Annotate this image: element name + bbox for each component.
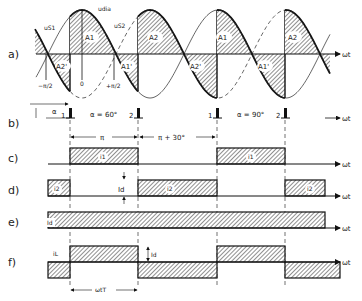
label-zero: 0 [80,80,84,87]
label-plus-pi-2: +π/2 [106,82,121,89]
area-A2-2: A2 [288,34,297,42]
row-label-c: c) [8,152,18,165]
label-Id-f: Id [151,251,157,258]
label-minus-pi-2: −π/2 [38,82,53,89]
pulse-3-label: 1 [208,112,212,120]
span-pi-label: π [100,134,105,142]
pulse-2 [137,108,140,118]
row-label-d: d) [8,184,19,197]
label-i2: i2 [54,185,60,192]
current-Id: ωt Id [46,212,351,233]
current-i2: ωt i2 i2 i2 Id [48,172,351,204]
alpha-60-label: α = 60° [90,111,117,119]
current-i1: ωt i1 i1 [48,148,351,169]
label-Id: Id [118,186,125,194]
pulse-4 [284,108,287,118]
axis-label-c: ωt [342,161,351,169]
area-A1: A1 [85,34,94,42]
axis-label-d: ωt [342,193,351,201]
label-us1: uS1 [44,24,56,31]
label-i1: i1 [100,153,106,160]
pulse-3 [216,108,219,118]
axis-label-e: ωt [342,225,351,233]
row-label-e: e) [8,216,19,229]
rectifier-waveform-diagram: a) b) c) d) e) f) ωt −π/2 0 +π/2 uS1 udi… [0,0,362,301]
area-A1-prime: A1' [121,63,132,71]
row-label-f: f) [8,256,16,269]
label-i1-2: i1 [248,153,254,160]
row-label-b: b) [8,117,19,130]
label-iL: iL [53,250,59,257]
pulse-1-label: 1 [61,112,65,120]
area-A1-2: A1 [218,34,227,42]
firing-pulses: α 1 2 1 2 α = 60° α = 90° ωt π π + 30° [30,104,351,142]
label-Id-e: Id [47,219,53,226]
area-A2-prime-2: A2' [190,63,201,71]
alpha-90-label: α = 90° [237,111,264,119]
label-udia: udia [98,5,111,12]
area-A2: A2 [149,34,158,42]
area-A2-prime: A2' [56,63,67,71]
area-A1-prime-2: A1' [258,63,269,71]
pulse-4-label: 2 [276,112,280,120]
pulse-1 [69,108,72,118]
span-pi-30-label: π + 30° [158,134,185,142]
pulse-2-label: 2 [129,112,133,120]
current-iL: ωt iL Id ωtT [48,246,351,293]
axis-label-f: ωt [342,259,351,267]
label-i2-3: i2 [307,185,313,192]
label-wT: ωtT [95,286,106,293]
axis-label-a: ωt [342,51,351,59]
label-i2-2: i2 [167,185,173,192]
row-label-a: a) [8,48,19,61]
alpha-label: α [52,108,57,116]
label-us2: uS2 [114,22,126,29]
axis-label-b: ωt [342,115,351,123]
